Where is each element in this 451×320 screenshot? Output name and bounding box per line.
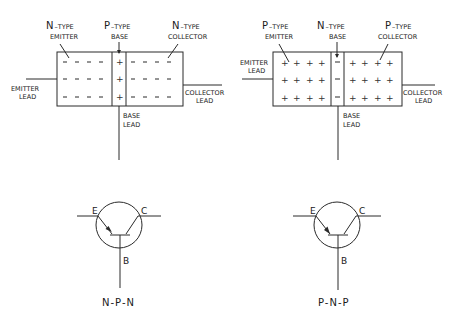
svg-text:+: + bbox=[349, 93, 357, 103]
pnp-base-pointer-head bbox=[335, 54, 339, 58]
svg-text:+: + bbox=[281, 58, 289, 68]
svg-text:+: + bbox=[306, 93, 314, 103]
svg-text:+: + bbox=[361, 58, 369, 68]
npn-b-label: B bbox=[123, 256, 129, 266]
npn-collector-lead-label: COLLECTOR LEAD bbox=[185, 89, 225, 105]
npn-emitter-lead-label: EMITTER LEAD bbox=[11, 85, 40, 101]
svg-text:EMITTER: EMITTER bbox=[11, 85, 40, 93]
npn-e-label: E bbox=[92, 206, 98, 216]
svg-text:LEAD: LEAD bbox=[196, 97, 213, 105]
svg-text:P–TYPE: P–TYPE bbox=[262, 20, 288, 31]
svg-text:BASE: BASE bbox=[329, 33, 346, 41]
npn-base-label: P–TYPE BASE bbox=[104, 20, 130, 41]
npn-envelope-circle bbox=[96, 202, 142, 248]
svg-text:COLLECTOR: COLLECTOR bbox=[378, 33, 418, 41]
pnp-b-label: B bbox=[341, 256, 347, 266]
pnp-base-lead-label: BASE LEAD bbox=[343, 112, 360, 129]
svg-text:COLLECTOR: COLLECTOR bbox=[168, 33, 208, 41]
npn-caption: N-P-N bbox=[102, 297, 135, 308]
svg-text:BASE: BASE bbox=[343, 112, 360, 120]
npn-emitter-leg bbox=[98, 216, 112, 234]
npn-symbol: E C B N-P-N bbox=[77, 202, 161, 308]
svg-text:+: + bbox=[386, 93, 394, 103]
svg-text:+: + bbox=[306, 75, 314, 85]
svg-text:EMITTER: EMITTER bbox=[240, 59, 269, 67]
pnp-collector-lead-label: COLLECTOR LEAD bbox=[403, 89, 443, 105]
svg-text:EMITTER: EMITTER bbox=[265, 33, 294, 41]
svg-text:+: + bbox=[116, 92, 124, 102]
svg-text:COLLECTOR: COLLECTOR bbox=[185, 89, 225, 97]
svg-text:COLLECTOR: COLLECTOR bbox=[403, 89, 443, 97]
npn-base-lead-label: BASE LEAD bbox=[123, 112, 140, 129]
svg-text:+: + bbox=[361, 75, 369, 85]
svg-text:+: + bbox=[374, 75, 382, 85]
svg-text:LEAD: LEAD bbox=[123, 121, 140, 129]
svg-text:P–TYPE: P–TYPE bbox=[385, 20, 411, 31]
svg-text:+: + bbox=[361, 93, 369, 103]
transistor-diagram: N–TYPE EMITTER P–TYPE BASE N–TYPE COLLEC… bbox=[0, 0, 451, 320]
svg-text:+: + bbox=[306, 58, 314, 68]
svg-text:LEAD: LEAD bbox=[415, 97, 432, 105]
npn-structure: N–TYPE EMITTER P–TYPE BASE N–TYPE COLLEC… bbox=[11, 20, 225, 160]
svg-text:+: + bbox=[318, 58, 326, 68]
svg-text:+: + bbox=[318, 93, 326, 103]
svg-text:+: + bbox=[293, 93, 301, 103]
svg-text:EMITTER: EMITTER bbox=[50, 33, 79, 41]
svg-text:LEAD: LEAD bbox=[19, 93, 36, 101]
npn-emitter-carriers bbox=[63, 62, 103, 97]
pnp-emitter-carriers: + + + + + + + + + + + + bbox=[281, 58, 326, 103]
svg-text:P–TYPE: P–TYPE bbox=[104, 20, 130, 31]
svg-text:+: + bbox=[374, 58, 382, 68]
svg-text:+: + bbox=[293, 75, 301, 85]
npn-collector-carriers bbox=[131, 62, 171, 97]
svg-text:BASE: BASE bbox=[123, 112, 140, 120]
pnp-e-label: E bbox=[310, 206, 316, 216]
svg-text:+: + bbox=[116, 57, 124, 67]
npn-base-carriers: + + + bbox=[116, 57, 124, 102]
npn-collector-label: N–TYPE COLLECTOR bbox=[168, 20, 208, 41]
pnp-emitter-lead-label: EMITTER LEAD bbox=[240, 59, 269, 75]
pnp-emitter-label: P–TYPE EMITTER bbox=[262, 20, 294, 41]
svg-text:+: + bbox=[374, 93, 382, 103]
pnp-c-label: C bbox=[359, 206, 365, 216]
pnp-collector-label: P–TYPE COLLECTOR bbox=[378, 20, 418, 41]
pnp-base-label: N–TYPE BASE bbox=[317, 20, 346, 41]
svg-text:+: + bbox=[349, 58, 357, 68]
svg-text:+: + bbox=[293, 58, 301, 68]
pnp-structure: P–TYPE EMITTER N–TYPE BASE P–TYPE COLLEC… bbox=[240, 20, 443, 160]
svg-text:+: + bbox=[386, 58, 394, 68]
npn-emitter-label: N–TYPE EMITTER bbox=[46, 20, 79, 41]
svg-text:+: + bbox=[281, 75, 289, 85]
npn-collector-pointer bbox=[168, 44, 178, 58]
pnp-base-carriers bbox=[335, 62, 340, 97]
pnp-symbol: E C B P-N-P bbox=[293, 202, 381, 308]
svg-text:+: + bbox=[116, 74, 124, 84]
svg-text:LEAD: LEAD bbox=[248, 67, 265, 75]
svg-text:LEAD: LEAD bbox=[343, 121, 360, 129]
pnp-envelope-circle bbox=[314, 202, 360, 248]
svg-text:N–TYPE: N–TYPE bbox=[172, 20, 200, 31]
pnp-collector-carriers: + + + + + + + + + + + + bbox=[349, 58, 394, 103]
svg-text:+: + bbox=[349, 75, 357, 85]
pnp-collector-leg bbox=[344, 216, 356, 234]
svg-text:+: + bbox=[318, 75, 326, 85]
svg-text:BASE: BASE bbox=[111, 33, 128, 41]
svg-text:N–TYPE: N–TYPE bbox=[317, 20, 345, 31]
svg-text:N–TYPE: N–TYPE bbox=[46, 20, 74, 31]
svg-text:+: + bbox=[386, 75, 394, 85]
npn-emitter-pointer bbox=[60, 44, 69, 58]
pnp-caption: P-N-P bbox=[318, 297, 350, 308]
svg-text:+: + bbox=[281, 93, 289, 103]
npn-collector-leg bbox=[126, 216, 138, 234]
npn-c-label: C bbox=[141, 206, 147, 216]
